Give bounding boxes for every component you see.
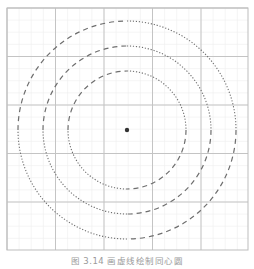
inner-arc-top-left [68,71,127,130]
outer-arc-top-right [127,21,236,130]
center-point [125,128,129,132]
concentric-circles-figure [0,0,254,254]
figure-caption: 图 3.14 画虚线绘制同心圆 [0,254,254,269]
outer-arc-top-left [18,21,127,130]
inner-arc-bottom-right [127,130,186,189]
inner-arc-top-right [127,71,186,130]
outer-arc-bottom-right [127,130,236,239]
outer-arc-bottom-left [18,130,127,239]
inner-arc-bottom-left [68,130,127,189]
